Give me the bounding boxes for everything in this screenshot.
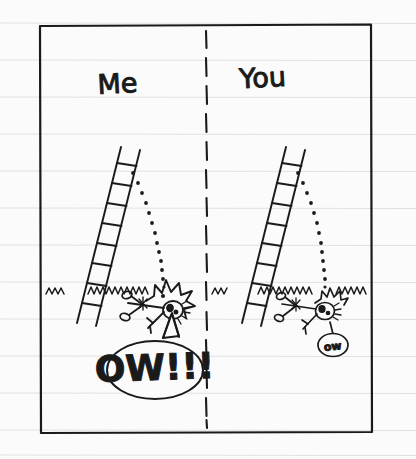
speech-text-ow-loud: OW!!! (94, 345, 215, 390)
comic-drawing: Me You OW!!! ow (0, 0, 416, 459)
panel-label-you: You (237, 61, 286, 94)
ground-grass-right (212, 287, 366, 294)
ground-grass-left (46, 287, 148, 294)
ladder-left (77, 147, 140, 326)
notebook-page: Me You OW!!! ow (0, 0, 416, 459)
fall-trajectory-left (131, 171, 165, 289)
panel-label-me: Me (97, 67, 138, 100)
fall-trajectory-right (296, 171, 327, 289)
speech-text-ow-quiet: ow (323, 339, 342, 354)
